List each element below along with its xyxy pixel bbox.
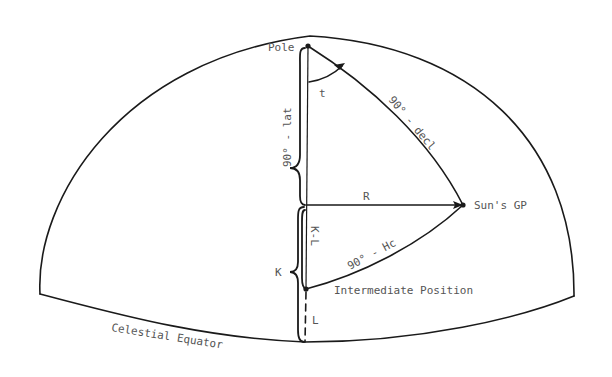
r-label: R [363,190,370,203]
k-label: K [275,266,282,279]
k-minus-l-brace [302,210,306,289]
co-declination-label: 90° - decl [386,94,439,153]
t-label: t [319,87,326,100]
suns-gp-point [460,202,465,207]
l-dashed-segment [305,292,306,342]
spherical-triangle-diagram: Pole t 90° - lat 90° - decl R Sun's GP K… [0,0,612,377]
k-minus-l-label: K-L [308,226,321,246]
intermediate-position-label: Intermediate Position [334,284,473,297]
pole-point [305,43,310,48]
co-declination-arc [308,46,463,205]
pole-label: Pole [268,41,295,54]
co-altitude-label: 90° - Hc [345,236,398,272]
intermediate-position-point [303,286,308,291]
suns-gp-label: Sun's GP [474,199,527,212]
colatitude-label: 90° - lat [281,107,294,167]
l-label: L [312,314,319,327]
t-angle-arc [309,66,342,82]
meridian-line [306,46,308,289]
celestial-equator-label: Celestial Equator [111,321,225,352]
